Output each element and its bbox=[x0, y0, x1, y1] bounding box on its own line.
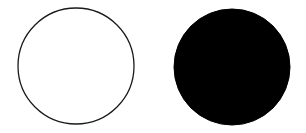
filled-circle bbox=[174, 9, 290, 125]
outline-circle bbox=[18, 8, 134, 124]
diagram-canvas bbox=[0, 0, 306, 133]
